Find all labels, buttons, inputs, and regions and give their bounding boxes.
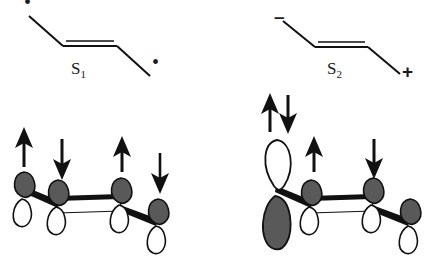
s2-orbital-framework bbox=[275, 186, 410, 226]
s2-positive-charge: + bbox=[402, 61, 413, 83]
figure-canvas: • • S1 – + S2 bbox=[0, 0, 424, 278]
s2-orbital-3 bbox=[362, 178, 384, 233]
s2-state-subscript: 2 bbox=[336, 68, 342, 80]
s2-spin-arrow-1-down bbox=[279, 95, 297, 134]
s2-spin-arrow-2-up bbox=[305, 136, 323, 172]
s1-state-label: S1 bbox=[71, 59, 86, 80]
s2-orbital-4 bbox=[399, 199, 421, 254]
s2-spin-arrow-1-up bbox=[261, 93, 279, 132]
s1-state-subscript: 1 bbox=[80, 68, 86, 80]
s2-panel bbox=[0, 0, 424, 278]
s2-orbital-2 bbox=[300, 180, 322, 235]
s2-state-label: S2 bbox=[327, 59, 342, 80]
s2-negative-charge: – bbox=[274, 6, 285, 28]
s2-spin-arrow-1-pair bbox=[261, 93, 297, 134]
s2-spin-arrow-3-down bbox=[365, 139, 383, 179]
